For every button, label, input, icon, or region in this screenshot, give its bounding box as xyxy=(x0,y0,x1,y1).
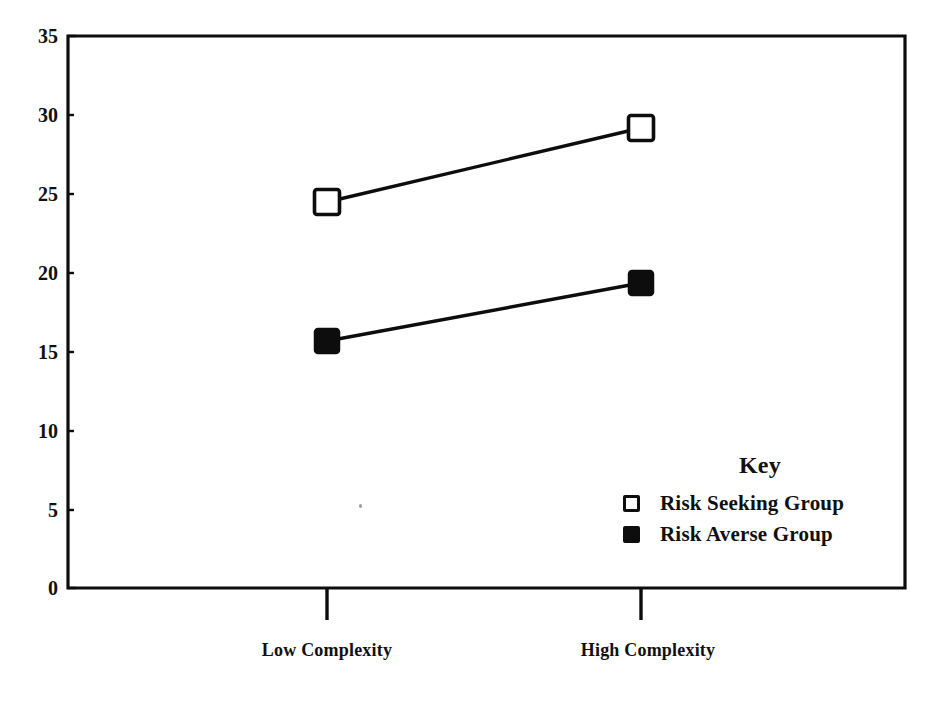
y-axis-label-25: 25 xyxy=(18,184,58,204)
legend-item-risk-averse-group: Risk Averse Group xyxy=(612,519,880,550)
y-axis-label-5: 5 xyxy=(18,500,58,520)
chart-figure: 35 30 25 20 15 10 5 0 Low Complexity Hig… xyxy=(0,0,948,702)
x-axis-label-high-complexity: High Complexity xyxy=(581,640,716,661)
marker-risk-averse-high-complexity xyxy=(629,271,653,295)
marker-risk-seeking-high-complexity xyxy=(629,116,654,141)
legend-title: Key xyxy=(612,452,880,479)
filled-square-icon xyxy=(623,526,640,543)
legend-swatch-open-square-wrap xyxy=(612,495,650,512)
legend-label-risk-seeking-group: Risk Seeking Group xyxy=(650,491,844,516)
series-line-risk-averse xyxy=(327,283,641,341)
series-risk-seeking-group xyxy=(315,116,654,215)
y-axis-label-30: 30 xyxy=(18,105,58,125)
marker-risk-seeking-low-complexity xyxy=(315,190,340,215)
y-axis-label-15: 15 xyxy=(18,342,58,362)
chart-legend: Key Risk Seeking Group Risk Averse Group xyxy=(612,452,880,550)
scan-artifact-speck xyxy=(359,504,362,508)
x-axis-label-low-complexity: Low Complexity xyxy=(262,640,392,661)
marker-risk-averse-low-complexity xyxy=(315,329,339,353)
y-axis-label-35: 35 xyxy=(18,26,58,46)
y-axis-label-10: 10 xyxy=(18,421,58,441)
legend-label-risk-averse-group: Risk Averse Group xyxy=(650,522,833,547)
open-square-icon xyxy=(623,495,640,512)
y-axis-label-0: 0 xyxy=(18,578,58,598)
interaction-plot-canvas xyxy=(0,0,948,702)
series-risk-averse-group xyxy=(315,271,653,353)
series-line-risk-seeking xyxy=(327,128,641,202)
legend-item-risk-seeking-group: Risk Seeking Group xyxy=(612,488,880,519)
x-axis-ticks xyxy=(327,589,641,620)
legend-swatch-filled-square-wrap xyxy=(612,526,650,543)
y-axis-label-20: 20 xyxy=(18,263,58,283)
